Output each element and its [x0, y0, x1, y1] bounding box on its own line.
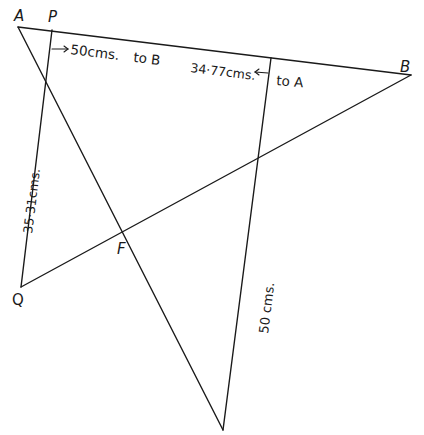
measure-label-50cms-to-b: 50cms. to B: [70, 41, 162, 68]
measure-label-34-77cms: 34·77cms.: [190, 60, 257, 83]
vertex-label-B: B: [400, 58, 410, 76]
arrow-right-icon: [52, 46, 68, 52]
measure-label-right-vertical: 50 cms.: [256, 282, 277, 335]
vertex-label-Q: Q: [12, 291, 24, 309]
measure-label-pq-length: 35·31cms.: [20, 168, 43, 235]
direction-label-to-a: to A: [276, 72, 305, 90]
vertex-label-A: A: [13, 7, 24, 25]
line-QB: [21, 75, 411, 287]
arrow-left-icon: [255, 69, 268, 75]
line-PQ: [21, 30, 52, 287]
line-A-bottom: [18, 27, 223, 430]
geometry-diagram: A P B Q F 50cms. to B 34·77cms. to A 35·…: [0, 0, 424, 435]
vertex-label-P: P: [48, 8, 58, 26]
line-R-bottom: [223, 58, 271, 430]
vertex-label-F: F: [117, 240, 126, 258]
